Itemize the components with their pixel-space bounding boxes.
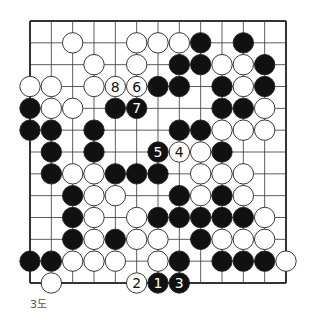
white-stone xyxy=(148,33,168,53)
black-stone xyxy=(148,207,168,227)
black-stone xyxy=(126,164,146,184)
white-stone xyxy=(62,33,82,53)
go-board: 86754213 xyxy=(0,0,314,322)
black-stone xyxy=(105,98,125,118)
diagram-caption: 3도 xyxy=(30,295,47,311)
move-number-label: 7 xyxy=(132,100,141,116)
black-stone xyxy=(148,164,168,184)
white-stone xyxy=(126,54,146,74)
white-stone xyxy=(169,33,189,53)
black-stone xyxy=(212,142,232,162)
black-stone xyxy=(62,207,82,227)
white-stone xyxy=(84,185,104,205)
black-stone xyxy=(41,120,61,140)
black-stone xyxy=(212,251,232,271)
black-stone xyxy=(254,54,274,74)
black-stone: 5 xyxy=(148,142,168,162)
white-stone xyxy=(148,229,168,249)
white-stone: 4 xyxy=(169,142,189,162)
move-number-label: 1 xyxy=(154,275,163,291)
white-stone xyxy=(254,98,274,118)
white-stone xyxy=(84,54,104,74)
white-stone xyxy=(276,251,296,271)
white-stone xyxy=(254,229,274,249)
black-stone xyxy=(233,251,253,271)
white-stone xyxy=(84,251,104,271)
white-stone xyxy=(233,185,253,205)
white-stone xyxy=(62,164,82,184)
white-stone xyxy=(62,251,82,271)
black-stone xyxy=(190,54,210,74)
move-number-label: 8 xyxy=(111,79,120,95)
black-stone xyxy=(148,76,168,96)
black-stone xyxy=(190,120,210,140)
black-stone: 3 xyxy=(169,273,189,293)
black-stone xyxy=(169,251,189,271)
black-stone xyxy=(105,229,125,249)
white-stone xyxy=(84,76,104,96)
black-stone xyxy=(190,33,210,53)
black-stone xyxy=(254,76,274,96)
move-number-label: 5 xyxy=(154,144,163,160)
black-stone xyxy=(41,251,61,271)
black-stone xyxy=(169,54,189,74)
black-stone xyxy=(212,76,232,96)
white-stone xyxy=(212,229,232,249)
black-stone: 1 xyxy=(148,273,168,293)
black-stone xyxy=(20,98,40,118)
white-stone xyxy=(190,142,210,162)
white-stone xyxy=(212,120,232,140)
white-stone xyxy=(233,229,253,249)
black-stone xyxy=(84,142,104,162)
white-stone xyxy=(254,207,274,227)
black-stone xyxy=(233,98,253,118)
black-stone xyxy=(169,120,189,140)
white-stone xyxy=(233,120,253,140)
white-stone xyxy=(126,33,146,53)
move-number-label: 4 xyxy=(175,144,184,160)
white-stone xyxy=(41,273,61,293)
black-stone xyxy=(254,251,274,271)
black-stone xyxy=(212,185,232,205)
black-stone xyxy=(20,120,40,140)
black-stone xyxy=(212,98,232,118)
white-stone xyxy=(126,229,146,249)
white-stone xyxy=(233,164,253,184)
white-stone xyxy=(105,185,125,205)
black-stone xyxy=(84,120,104,140)
white-stone xyxy=(41,76,61,96)
white-stone xyxy=(148,251,168,271)
white-stone xyxy=(233,76,253,96)
black-stone xyxy=(169,185,189,205)
white-stone xyxy=(190,185,210,205)
black-stone xyxy=(41,142,61,162)
black-stone xyxy=(190,229,210,249)
black-stone xyxy=(62,185,82,205)
black-stone xyxy=(20,251,40,271)
move-number-label: 2 xyxy=(132,275,141,291)
white-stone xyxy=(190,164,210,184)
white-stone xyxy=(84,229,104,249)
black-stone xyxy=(169,207,189,227)
white-stone xyxy=(254,120,274,140)
white-stone xyxy=(84,207,104,227)
black-stone xyxy=(105,164,125,184)
move-number-label: 6 xyxy=(132,79,141,95)
black-stone xyxy=(62,229,82,249)
black-stone: 7 xyxy=(126,98,146,118)
white-stone xyxy=(212,164,232,184)
move-number-label: 3 xyxy=(175,275,184,291)
black-stone xyxy=(190,207,210,227)
black-stone xyxy=(212,207,232,227)
black-stone xyxy=(169,76,189,96)
white-stone xyxy=(212,54,232,74)
black-stone xyxy=(233,207,253,227)
white-stone xyxy=(126,207,146,227)
black-stone xyxy=(233,33,253,53)
white-stone: 2 xyxy=(126,273,146,293)
white-stone xyxy=(20,76,40,96)
white-stone xyxy=(233,54,253,74)
black-stone xyxy=(41,164,61,184)
white-stone xyxy=(41,98,61,118)
white-stone: 6 xyxy=(126,76,146,96)
